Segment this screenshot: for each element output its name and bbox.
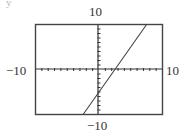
graph-window: [0, 0, 183, 136]
